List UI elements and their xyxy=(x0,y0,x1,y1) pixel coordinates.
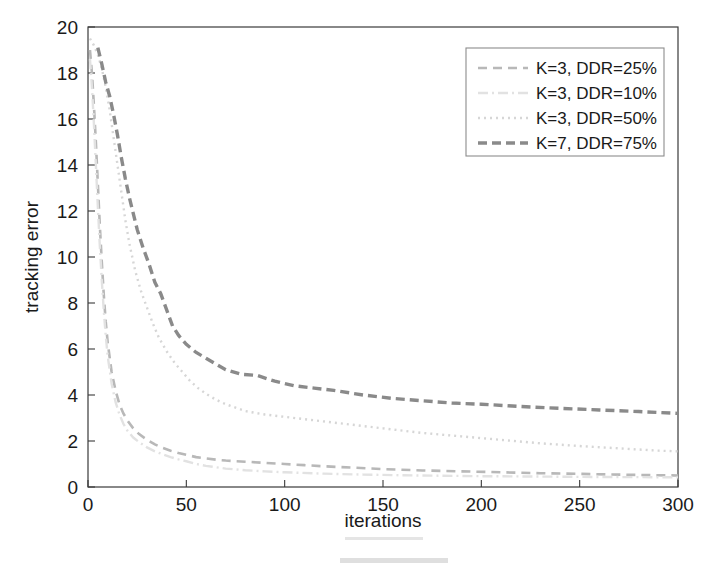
y-tick-label: 4 xyxy=(67,385,78,406)
y-tick-label: 8 xyxy=(67,293,78,314)
y-tick-label: 14 xyxy=(57,155,79,176)
legend-label-3: K=3, DDR=50% xyxy=(536,109,657,128)
y-tick-label: 16 xyxy=(57,109,78,130)
legend-label-2: K=3, DDR=10% xyxy=(536,84,657,103)
x-axis-title: iterations xyxy=(344,510,421,531)
x-tick-label: 100 xyxy=(269,494,301,515)
legend-label-4: K=7, DDR=75% xyxy=(536,134,657,153)
line-chart: 050100150200250300 02468101214161820 ite… xyxy=(0,0,714,568)
y-tick-label: 20 xyxy=(57,17,78,38)
scan-artifact-top xyxy=(345,537,423,540)
x-tick-label: 300 xyxy=(662,494,694,515)
x-tick-label: 200 xyxy=(465,494,497,515)
y-tick-label: 18 xyxy=(57,63,78,84)
y-tick-label: 12 xyxy=(57,201,78,222)
x-tick-label: 0 xyxy=(83,494,94,515)
y-tick-label: 10 xyxy=(57,247,78,268)
y-axis-title: tracking error xyxy=(21,200,42,313)
legend-label-1: K=3, DDR=25% xyxy=(536,59,657,78)
y-tick-label: 0 xyxy=(67,477,78,498)
y-axis-ticks: 02468101214161820 xyxy=(57,17,95,498)
figure-container: 050100150200250300 02468101214161820 ite… xyxy=(0,0,714,568)
x-tick-label: 250 xyxy=(564,494,596,515)
y-tick-label: 2 xyxy=(67,431,78,452)
x-tick-label: 50 xyxy=(176,494,197,515)
legend: K=3, DDR=25%K=3, DDR=10%K=3, DDR=50%K=7,… xyxy=(466,48,664,156)
scan-artifact-bottom xyxy=(340,558,448,563)
y-tick-label: 6 xyxy=(67,339,78,360)
